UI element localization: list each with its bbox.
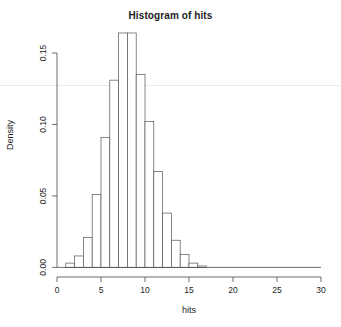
x-tick-label: 15 — [184, 285, 194, 295]
histogram-bar — [66, 263, 75, 267]
x-tick-label: 10 — [140, 285, 150, 295]
x-tick-label: 30 — [316, 285, 326, 295]
histogram-plot: Histogram of hits 0.000.050.100.15 05101… — [0, 0, 341, 327]
histogram-bar — [127, 33, 136, 267]
histogram-bar — [83, 237, 92, 267]
histogram-bar — [136, 74, 145, 267]
y-tick-label: 0.05 — [38, 187, 48, 204]
x-tick-label: 5 — [99, 285, 104, 295]
histogram-bars — [66, 33, 207, 267]
x-tick-label: 20 — [228, 285, 238, 295]
histogram-bar — [189, 263, 198, 267]
x-tick-label: 0 — [55, 285, 60, 295]
y-axis-label: Density — [5, 105, 15, 165]
histogram-bar — [145, 122, 154, 268]
histogram-bar — [171, 240, 180, 267]
plot-canvas: 0.000.050.100.15 051015202530 — [0, 0, 341, 327]
histogram-bar — [92, 195, 101, 268]
histogram-bar — [119, 33, 128, 267]
histogram-bar — [163, 213, 172, 267]
y-tick-label: 0.15 — [38, 44, 48, 61]
density-axis: 0.000.050.100.15 — [38, 44, 57, 275]
histogram-bar — [110, 80, 119, 267]
histogram-bar — [101, 137, 110, 267]
y-tick-label: 0.00 — [38, 259, 48, 276]
y-tick-label: 0.10 — [38, 116, 48, 133]
x-axis-label: hits — [57, 305, 321, 315]
histogram-bar — [154, 172, 163, 268]
x-tick-label: 25 — [272, 285, 282, 295]
hits-axis: 051015202530 — [55, 277, 326, 295]
histogram-bar — [180, 255, 189, 268]
histogram-bar — [75, 256, 84, 267]
